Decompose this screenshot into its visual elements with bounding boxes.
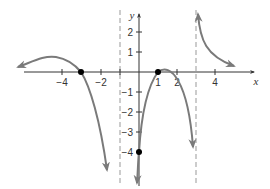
y-tick-label: 1 — [127, 47, 133, 58]
y-tick-label: −1 — [122, 87, 134, 98]
x-tick-label: 4 — [212, 77, 218, 88]
x-tick-label: 1 — [155, 77, 161, 88]
y-tick-label: −2 — [122, 107, 134, 118]
y-tick-label: −3 — [122, 127, 134, 138]
y-tick-label: −4 — [122, 147, 134, 158]
graph: −4 −2 1 2 4 2 1 −1 −2 −3 −4 x y — [0, 0, 270, 189]
x-axis-label: x — [253, 75, 259, 87]
point-x-intercept-neg3 — [78, 69, 84, 75]
point-x-intercept-1 — [155, 69, 161, 75]
y-axis-label: y — [129, 9, 135, 21]
y-tick-label: 2 — [127, 27, 133, 38]
x-tick-label: −2 — [95, 77, 107, 88]
point-y-intercept-neg4 — [136, 149, 142, 155]
curve-branch-middle — [137, 69, 193, 183]
curve-branch-right — [198, 14, 234, 66]
x-tick-label: −4 — [56, 77, 68, 88]
